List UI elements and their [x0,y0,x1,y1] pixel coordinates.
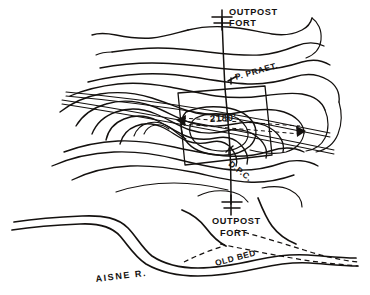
south-fort-label-line2: FORT [220,228,247,238]
summit-elevation-label: 2180' [210,112,237,124]
north-fort-label-line1: OUTPOST [229,7,278,17]
contour-n3 [100,60,330,70]
contour-south-lobe-left [198,191,248,202]
aisne-river-upstream-south [258,198,296,244]
old-bed-group [184,230,358,266]
map-drawing-canvas: OUTPOST FORT P. PRAET. 2180' D.P.C. OUTP… [0,0,370,295]
south-fort-label-line1: OUTPOST [212,216,261,226]
contour-south-4 [116,183,228,192]
contour-south-lobe-right [262,187,302,207]
contour-north-spur [306,18,321,58]
south-fort-symbol-icon [222,195,242,215]
contour-n2 [112,43,324,55]
contour-ring-6-return [250,133,304,153]
praetorian-post-label: P. PRAET. [234,60,279,82]
praetorian-post-group: P. PRAET. [228,60,279,84]
river-group [12,198,358,276]
contour-outermost-north-west [92,30,188,38]
south-fort-marker-group [222,195,242,215]
aisne-river-south-bank [12,224,358,276]
aisne-river-label: AISNE R. [95,268,148,284]
contour-n2-tail-left [96,52,112,55]
topographic-sketch-map: OUTPOST FORT P. PRAET. 2180' D.P.C. OUTP… [0,0,370,295]
north-fort-label-line2: FORT [229,18,256,28]
